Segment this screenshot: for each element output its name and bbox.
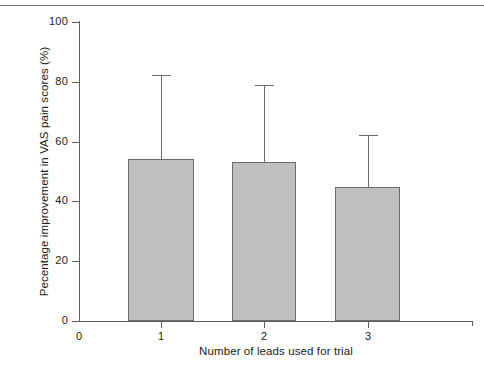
y-tick-label-0-wrap: 0 [30,315,68,326]
bar-chart-figure: 100 80 60 40 20 0 1 2 3 0 Number of lead… [0,0,484,365]
x-tick-1 [161,322,162,328]
bar-leads-1 [128,159,194,321]
error-bar-cap-2 [255,85,274,86]
y-tick-80 [72,82,79,83]
y-tick-60 [72,142,79,143]
x-axis-title: Number of leads used for trial [79,345,473,358]
x-axis-origin-label: 0 [64,330,94,342]
y-tick-label-100-wrap: 100 [30,16,68,27]
x-tick-3 [368,322,369,328]
error-bar-stem-2 [264,85,265,162]
bar-leads-3 [335,187,400,321]
x-axis-end-tick [472,321,473,326]
x-axis-line [79,321,473,322]
x-tick-label-1: 1 [146,330,176,342]
x-tick-label-3: 3 [353,330,383,342]
y-tick-label-100: 100 [34,16,68,27]
y-tick-20 [72,261,79,262]
y-axis-title: Pecentage improvement in VAS pain scores… [38,32,51,312]
bar-leads-2 [232,162,296,321]
x-tick-label-2: 2 [249,330,279,342]
error-bar-cap-3 [359,135,378,136]
error-bar-cap-1 [152,75,171,76]
x-tick-2 [264,322,265,328]
y-tick-40 [72,201,79,202]
y-tick-0 [72,321,79,322]
error-bar-stem-3 [368,135,369,187]
y-axis-line [79,21,80,322]
error-bar-stem-1 [161,75,162,159]
y-tick-label-0: 0 [34,315,68,326]
y-tick-100 [72,22,79,23]
